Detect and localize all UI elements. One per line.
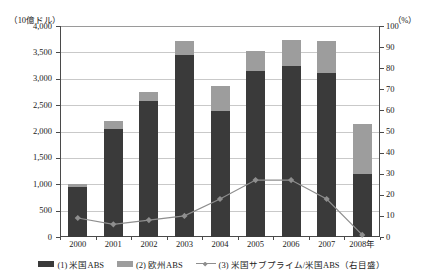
line-series-group — [0, 0, 423, 280]
legend-item-label: (1) 米国ABS — [57, 258, 104, 270]
legend-item[interactable]: (1) 米国ABS — [38, 258, 104, 270]
line-marker — [181, 213, 187, 219]
legend-item-label: (2) 欧州ABS — [136, 258, 183, 270]
legend-item-label: (3) 米国サブプライム/米国ABS（右目盛） — [219, 258, 385, 270]
legend-color-swatch-icon — [38, 261, 54, 267]
legend-item[interactable]: (2) 欧州ABS — [117, 258, 183, 270]
chart-legend: (1) 米国ABS(2) 欧州ABS(3) 米国サブプライム/米国ABS（右目盛… — [0, 258, 423, 270]
line-marker — [75, 215, 81, 221]
legend-color-swatch-icon — [117, 261, 133, 267]
legend-line-swatch-icon — [196, 261, 216, 267]
chart-container: （10億ドル） （%） 4,0003,5003,0002,5002,0001,5… — [0, 0, 423, 280]
line-marker — [288, 177, 294, 183]
line-marker — [217, 196, 223, 202]
line-marker — [252, 177, 258, 183]
line-path-subprime-ratio — [78, 180, 362, 235]
legend-item[interactable]: (3) 米国サブプライム/米国ABS（右目盛） — [196, 258, 385, 270]
line-marker — [110, 221, 116, 227]
line-marker — [146, 217, 152, 223]
